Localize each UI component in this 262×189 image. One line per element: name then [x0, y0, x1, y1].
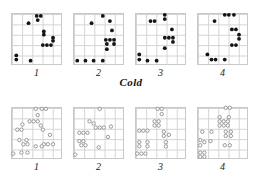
group-label-cold: Cold — [0, 76, 262, 88]
panel-warm-3[interactable]: 3 — [135, 107, 186, 159]
panel-row-warm: 1 2 3 4 Warm — [0, 95, 262, 189]
panel-scatter-points — [197, 13, 248, 65]
panel-label-warm-2: 2 — [73, 161, 124, 172]
panel-label-warm-3: 3 — [135, 161, 186, 172]
panel-cold-1[interactable]: 1 — [11, 13, 62, 65]
panel-warm-1[interactable]: 1 — [11, 107, 62, 159]
panel-cold-4[interactable]: 4 — [197, 13, 248, 65]
panel-warm-4[interactable]: 4 — [197, 107, 248, 159]
panel-scatter-points — [135, 107, 186, 159]
panel-warm-2[interactable]: 2 — [73, 107, 124, 159]
scatter-panel-figure: 1 2 3 4 Cold 1 2 — [0, 0, 262, 189]
panel-label-warm-1: 1 — [11, 161, 62, 172]
panel-row-cold: 1 2 3 4 Cold — [0, 0, 262, 95]
panel-label-warm-4: 4 — [197, 161, 248, 172]
panel-scatter-points — [11, 107, 62, 159]
panel-scatter-points — [11, 13, 62, 65]
panel-scatter-points — [135, 13, 186, 65]
panel-scatter-points — [73, 107, 124, 159]
panel-cold-3[interactable]: 3 — [135, 13, 186, 65]
panel-scatter-points — [197, 107, 248, 159]
panel-scatter-points — [73, 13, 124, 65]
panel-cold-2[interactable]: 2 — [73, 13, 124, 65]
